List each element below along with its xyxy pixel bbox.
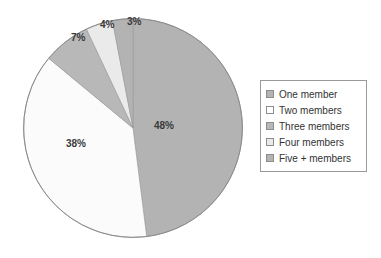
slice-label-three-members: 7% [71,32,85,43]
legend-item[interactable]: Five + members [266,150,366,166]
slice-label-four-members: 4% [100,19,114,30]
pie-chart-graphic [23,18,243,238]
legend-item-label: One member [279,89,337,100]
legend-item[interactable]: Four members [266,134,366,150]
legend-swatch-icon [266,90,274,98]
legend-swatch-icon [266,138,274,146]
legend-swatch-icon [266,122,274,130]
pie-slice [133,19,242,237]
slice-label-five-members: 3% [127,16,141,27]
slice-label-two-members: 38% [66,138,86,149]
legend-item[interactable]: Three members [266,118,366,134]
legend-item-label: Two members [279,105,342,116]
legend-item-label: Five + members [279,153,351,164]
slice-label-one-member: 48% [154,120,174,131]
legend-item[interactable]: One member [266,86,366,102]
legend-swatch-icon [266,106,274,114]
legend-item-label: Three members [279,121,350,132]
legend-item[interactable]: Two members [266,102,366,118]
pie-slices-group [24,19,243,238]
legend-item-label: Four members [279,137,344,148]
pie-chart-figure: 48% 38% 7% 4% 3% One memberTwo membersTh… [0,0,381,258]
pie-svg [23,18,243,238]
legend-swatch-icon [266,154,274,162]
chart-legend: One memberTwo membersThree membersFour m… [260,80,367,172]
